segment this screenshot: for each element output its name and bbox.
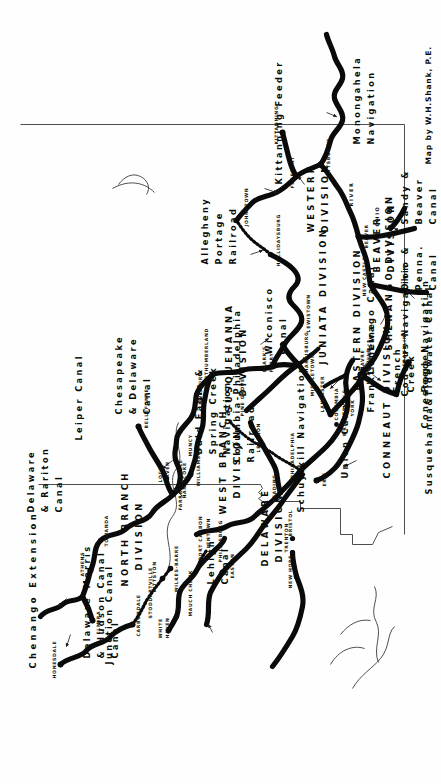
label-delaware-hudson-line1: Delaware [82,595,91,658]
city-label-york: YORK [350,399,355,416]
label-schuylkill-navigation: Schuylkill Navigation [296,364,305,512]
label-ohio-penna-line2: Penna. [414,244,423,290]
city-label-middletown: MIDDLETOWN [310,353,315,396]
dot-bellefonte [135,423,141,429]
river-label-river: RIVER [348,181,353,206]
city-label-port-carbon: PORT CARBON [198,515,203,560]
city-label-havre-line1: HAVRE [360,349,365,370]
city-label-wrightsville: WRIGHTSVILLE [342,389,347,436]
city-label-kittanning: KITTANNING [274,105,279,144]
city-label-hollidaysburg: HOLLIDAYSBURG [276,213,281,266]
city-label-clarks-ferry-line2: FERRY [269,352,274,372]
label-chesapeake-delaware-line2: & Delaware [128,337,137,414]
label-wiconisco-canal-line1: Wiconisco [264,286,273,354]
city-label-elmira: ELMIRA [96,610,101,634]
city-label-honesdale: HONESDALE [52,640,57,678]
label-morris-canal-line2: Canal [96,550,105,588]
dot-wrightsville [334,422,339,427]
canal-line-bald-eagle [138,426,172,494]
city-label-white-haven-line1: WHITE [158,618,163,638]
city-label-lock-haven-line1: LOCK [158,466,163,482]
label-sandy-beaver-line2: Beaver [414,177,423,224]
city-label-bellefonte: BELLEFONTE [144,388,149,428]
city-label-lock-haven-line2: HAVEN [165,461,170,482]
label-allegheny-portage-line1: Allegheny [200,196,209,264]
label-western-division-line1: WESTERN [306,162,315,232]
city-label-allentown: ALLENTOWN [206,517,211,556]
label-delaware-hudson-line3: Canal [110,620,119,658]
label-allegheny-portage-line2: Portage [214,211,223,264]
label-north-branch-division-line1: NORTH BRANCH [120,470,129,586]
city-label-easton: EASTON [230,553,235,578]
city-label-towanda: TOWANDA [104,514,109,546]
label-beaver-division-line2: DIVISION [386,202,395,272]
canal-line-delaware-raritan [272,576,303,666]
label-monongahela-line2: Navigation [366,70,375,144]
city-label-bristol: BRISTOL [288,509,293,536]
city-label-white-haven-line2: HAVEN [165,617,170,638]
label-ohio-penna-line3: Canal [428,252,437,290]
city-label-franklin: FRANKLIN [402,334,407,366]
city-label-mauch-chunk: MAUCH CHUNK [188,569,193,616]
city-label-stoddartville: STODDARTVILLE [148,567,153,618]
city-label-carbondale: CARBONDALE [136,594,141,636]
label-delaware-raritan-line2: & Rariton [40,446,49,512]
label-wiconisco-canal-line2: Canal [278,316,287,354]
label-ohio-penna-line1: Ohio & [400,244,409,290]
city-label-johnstown: JOHNSTOWN [244,187,249,226]
canal-line-portage-rr [236,220,270,254]
label-chesapeake-delaware-line1: Chesapeake [114,334,123,414]
city-label-new-hope: NEW HOPE [288,554,293,588]
city-label-clarks-ferry-line1: CLARK'S [262,345,267,372]
city-label-philadelphia: PHILADELPHIA [290,432,295,478]
city-label-lebanon: LEBANON [256,422,261,452]
canal-line-chenango-extension [40,596,82,616]
city-label-meadville: MEADVILLE [366,348,371,384]
label-allegheny-portage-line3: Railroad [228,206,237,264]
city-label-williamsport: WILLIAMSPORT [196,438,201,486]
city-label-northumberland: NORTHUMBERLAND [204,328,209,388]
label-monongahela-line1: Monongahela [352,55,361,144]
river-label-ohio: OHIO [374,205,379,226]
label-french-creek-line1: French [392,346,401,392]
label-delaware-division-line1: DELAWARE [260,487,269,566]
map-credit: Map by W.H.Shank, P.E. [424,46,432,164]
map-stage: Chenango Extension Junction Canal NORTH … [0,0,441,784]
label-chenango-extension: Chenango Extension [28,510,37,668]
label-sandy-beaver-line1: Sandy & [400,169,409,224]
label-leiper-canal: Leiper Canal [74,354,83,440]
city-label-erie: ERIE [322,472,327,486]
city-label-pittsburgh: PITTSBURGH [326,138,331,178]
city-label-athens: ATHENS [80,551,85,576]
city-label-lancaster: LANCASTER [320,375,325,412]
label-juniata-division: JUNIATA DIVISION [318,226,327,364]
label-delaware-raritan-line3: Canal [54,474,63,512]
city-label-lewistown: LEWISTOWN [306,294,311,332]
city-label-lewisburg: LEWISBURG [198,371,203,408]
city-label-columbia: COLUMBIA [334,387,339,420]
city-label-beaver: BEAVER [364,224,369,248]
city-label-pine-grove: PINE GROVE [240,378,245,416]
city-label-freeport: FREEPORT [290,156,295,188]
state-boundary [20,124,404,544]
label-delaware-raritan-line1: Delaware [26,449,35,512]
label-columbia-philadelphia-rr-line2: Railroad [246,404,255,462]
map-page: Chenango Extension Junction Canal NORTH … [0,0,441,784]
city-label-new-castle: NEW CASTLE [362,256,367,296]
label-north-branch-division-line2: DIVISION [134,500,143,570]
city-label-farrandsville: FARRANDSVILLE [178,459,183,510]
city-label-reading: READING [272,474,277,502]
city-label-philipsburg: PHILIPSBURG [218,520,223,562]
city-label-wilkes-barre: WILKES-BARRE [174,545,179,592]
city-label-harrisburg: HARRISBURG [304,331,309,372]
label-bald-eagle-line3: Navigation [222,380,231,454]
label-french-creek-line3: Feeder [420,346,429,392]
label-sandy-beaver-line3: Canal [428,186,437,224]
city-label-muncy: MUNCY [188,434,193,456]
